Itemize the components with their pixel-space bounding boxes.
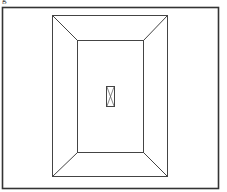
- outer-frame: [3, 8, 219, 189]
- corner-line-bl: [53, 153, 78, 177]
- diagram-canvas: [0, 0, 227, 192]
- center-window-icon: [107, 87, 115, 107]
- corner-line-tr: [144, 16, 168, 41]
- corner-line-br: [144, 153, 168, 177]
- corner-line-tl: [53, 16, 78, 41]
